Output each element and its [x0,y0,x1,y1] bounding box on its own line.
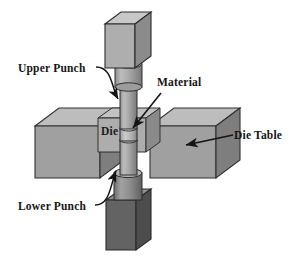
figure-canvas: Upper Punch Lower Punch Material Die Tab… [0,0,296,265]
label-die-table: Die Table [234,130,282,142]
label-upper-punch: Upper Punch [18,63,86,75]
label-lower-punch: Lower Punch [18,201,86,213]
label-die: Die [101,126,118,138]
upper-punch-head-block [105,12,151,68]
label-material: Material [157,77,201,89]
